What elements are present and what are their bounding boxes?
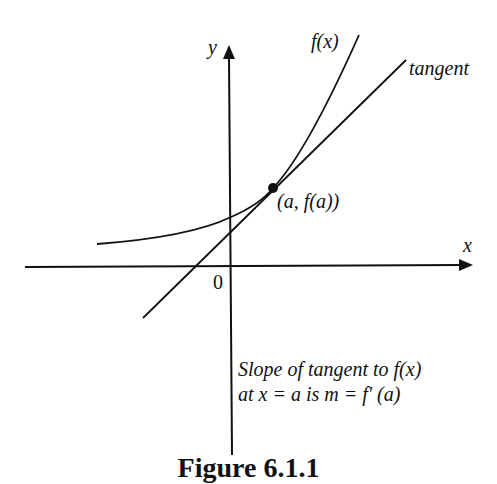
point-label: (a, f(a)) (277, 190, 339, 213)
tangent-label: tangent (409, 57, 469, 80)
x-axis-label: x (463, 234, 472, 257)
y-axis-label: y (208, 36, 217, 59)
figure-caption: Figure 6.1.1 (0, 452, 497, 484)
x-axis (25, 265, 462, 267)
slope-note-line-1: Slope of tangent to f(x) (238, 358, 421, 381)
slope-note-line-2: at x = a is m = f' (a) (238, 383, 400, 406)
y-axis (229, 58, 232, 455)
y-axis-arrow-icon (223, 45, 235, 59)
curve-label: f(x) (311, 30, 339, 53)
origin-label: 0 (213, 271, 223, 294)
x-axis-arrow-icon (459, 259, 473, 271)
